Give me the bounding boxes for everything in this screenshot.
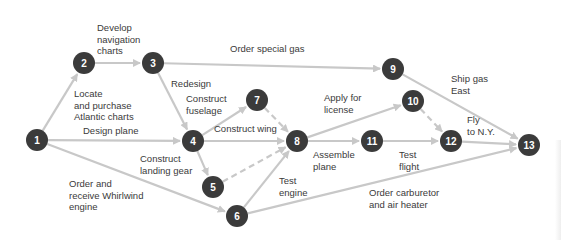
label-assemble: Assemble plane	[313, 149, 355, 172]
node-label: 7	[254, 95, 260, 106]
node-label: 6	[234, 211, 240, 222]
node-label: 13	[523, 140, 535, 151]
label-test-engine: Test engine	[279, 175, 308, 198]
label-landing-gear: Construct landing gear	[140, 153, 192, 176]
node-6: 6	[226, 205, 248, 227]
page-edge-shadow	[555, 140, 561, 240]
label-locate: Locate and purchase Atlantic charts	[74, 88, 134, 123]
label-fly: Fly to N.Y.	[467, 114, 495, 137]
node-label: 12	[445, 136, 457, 147]
node-10: 10	[402, 90, 424, 112]
label-order-engine: Order and receive Whirlwind engine	[69, 178, 143, 213]
node-5: 5	[202, 176, 224, 198]
node-2: 2	[73, 52, 95, 74]
edge-5-8	[223, 147, 286, 181]
node-13: 13	[518, 134, 540, 156]
label-design-plane: Design plane	[83, 125, 138, 137]
edge-1-4	[48, 140, 180, 141]
edge-4-5	[197, 151, 207, 175]
node-label: 5	[210, 182, 216, 193]
label-fuselage: Construct fuselage	[186, 93, 227, 116]
node-12: 12	[440, 130, 462, 152]
edge-12-13	[462, 142, 516, 145]
label-redesign: Redesign	[171, 78, 211, 90]
node-9: 9	[382, 58, 404, 80]
label-order-gas: Order special gas	[230, 43, 304, 55]
node-label: 2	[81, 58, 87, 69]
label-test-flight: Test flight	[399, 149, 419, 172]
label-develop: Develop navigation charts	[97, 22, 140, 57]
node-label: 11	[367, 136, 378, 147]
node-label: 1	[34, 135, 40, 146]
node-11: 11	[361, 130, 383, 152]
node-1: 1	[26, 129, 48, 151]
node-label: 10	[407, 96, 419, 107]
label-wing: Construct wing	[214, 123, 277, 135]
node-label: 3	[150, 58, 156, 69]
node-3: 3	[142, 52, 164, 74]
label-ship-gas: Ship gas East	[451, 73, 488, 96]
edge-10-12	[421, 109, 442, 132]
node-label: 8	[294, 136, 300, 147]
node-4: 4	[182, 130, 204, 152]
edge-3-9	[164, 63, 380, 68]
node-label: 4	[190, 136, 196, 147]
node-8: 8	[286, 130, 308, 152]
label-carburetor: Order carburetor and air heater	[369, 187, 439, 210]
node-label: 9	[390, 64, 396, 75]
label-license: Apply for license	[324, 92, 362, 115]
edge-1-2	[43, 74, 77, 131]
node-7: 7	[246, 89, 268, 111]
